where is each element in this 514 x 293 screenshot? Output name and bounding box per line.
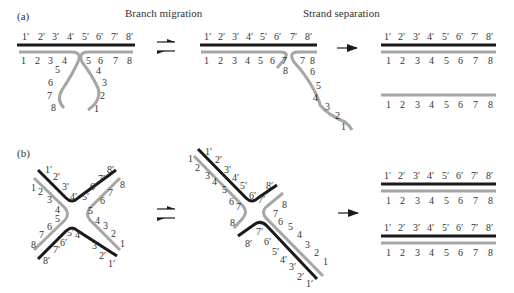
svg-text:5: 5 [222, 184, 227, 195]
svg-text:8: 8 [51, 102, 56, 113]
svg-text:8′: 8′ [107, 164, 114, 175]
svg-text:4: 4 [429, 195, 434, 206]
svg-text:8: 8 [310, 55, 315, 66]
svg-text:4′: 4′ [280, 254, 287, 265]
svg-text:4: 4 [96, 65, 101, 76]
svg-text:8′: 8′ [305, 31, 312, 42]
svg-text:7: 7 [108, 187, 113, 198]
svg-text:8′: 8′ [486, 170, 493, 181]
svg-text:3: 3 [102, 77, 107, 88]
svg-text:5′: 5′ [67, 227, 74, 238]
svg-text:5′: 5′ [442, 31, 449, 42]
svg-text:6: 6 [310, 66, 315, 77]
svg-text:6: 6 [47, 221, 52, 232]
svg-text:2: 2 [218, 55, 223, 66]
forward-arrow-b [338, 209, 359, 217]
svg-text:2′: 2′ [398, 31, 405, 42]
svg-text:4′: 4′ [70, 191, 77, 202]
svg-text:8: 8 [488, 195, 493, 206]
svg-text:5′: 5′ [442, 222, 449, 233]
svg-text:6′: 6′ [264, 236, 271, 247]
svg-text:5′: 5′ [240, 180, 247, 191]
svg-text:5: 5 [55, 64, 60, 75]
panel-a-label: (a) [17, 10, 30, 23]
svg-text:2: 2 [38, 186, 43, 197]
svg-text:5: 5 [444, 99, 449, 110]
svg-text:7: 7 [39, 229, 44, 240]
panel-b-label: (b) [17, 147, 30, 160]
svg-text:1′: 1′ [108, 258, 115, 269]
svg-text:2: 2 [400, 247, 405, 258]
svg-text:6: 6 [458, 99, 463, 110]
svg-text:8: 8 [31, 239, 36, 250]
svg-text:8′: 8′ [266, 180, 273, 191]
svg-text:5: 5 [444, 55, 449, 66]
svg-text:7′: 7′ [471, 170, 478, 181]
svg-text:2: 2 [314, 247, 319, 258]
svg-text:1: 1 [31, 182, 36, 193]
svg-text:3′: 3′ [232, 31, 239, 42]
svg-text:2′: 2′ [218, 31, 225, 42]
svg-text:1: 1 [120, 238, 125, 249]
svg-text:8: 8 [120, 179, 125, 190]
svg-text:1: 1 [94, 103, 99, 114]
svg-text:4′: 4′ [427, 170, 434, 181]
svg-text:3′: 3′ [52, 31, 59, 42]
panel-a-structure-1: 1′2′3′4′ 5′6′7′8′ 1234 5678 5678 4321 [17, 31, 135, 114]
svg-text:3′: 3′ [62, 181, 69, 192]
svg-text:7: 7 [473, 195, 478, 206]
svg-text:3′: 3′ [224, 164, 231, 175]
svg-text:4′: 4′ [75, 229, 82, 240]
reversible-arrow-b [157, 206, 175, 221]
svg-text:3: 3 [47, 194, 52, 205]
svg-text:8′: 8′ [486, 31, 493, 42]
svg-text:5: 5 [316, 80, 321, 91]
svg-text:7: 7 [300, 55, 305, 66]
svg-text:5: 5 [86, 55, 91, 66]
svg-text:5: 5 [258, 55, 263, 66]
svg-text:5′: 5′ [272, 246, 279, 257]
svg-text:2′: 2′ [215, 154, 222, 165]
svg-text:6′: 6′ [456, 170, 463, 181]
svg-text:1: 1 [386, 55, 391, 66]
svg-text:8: 8 [283, 65, 288, 76]
svg-text:7: 7 [473, 247, 478, 258]
svg-text:2: 2 [400, 195, 405, 206]
svg-text:6: 6 [458, 195, 463, 206]
svg-text:8′: 8′ [126, 31, 133, 42]
svg-text:5′: 5′ [82, 191, 89, 202]
svg-text:7′: 7′ [98, 173, 105, 184]
svg-text:2: 2 [335, 110, 340, 121]
branch-migration-title: Branch migration [125, 7, 203, 19]
svg-text:3′: 3′ [289, 261, 296, 272]
svg-text:6′: 6′ [96, 31, 103, 42]
svg-text:2′: 2′ [38, 31, 45, 42]
svg-text:4: 4 [429, 247, 434, 258]
svg-text:2: 2 [100, 90, 105, 101]
svg-text:1′: 1′ [384, 170, 391, 181]
svg-text:8: 8 [488, 55, 493, 66]
svg-text:8: 8 [282, 199, 287, 210]
svg-text:8: 8 [127, 55, 132, 66]
svg-text:1: 1 [386, 247, 391, 258]
svg-text:7′: 7′ [258, 194, 265, 205]
svg-text:7: 7 [473, 55, 478, 66]
svg-text:7: 7 [473, 99, 478, 110]
svg-text:4: 4 [62, 55, 67, 66]
svg-text:4: 4 [429, 99, 434, 110]
strand-separation-title: Strand separation [303, 7, 380, 19]
svg-text:5′: 5′ [260, 31, 267, 42]
svg-text:6: 6 [270, 55, 275, 66]
svg-text:8′: 8′ [43, 255, 50, 266]
svg-text:6′: 6′ [249, 190, 256, 201]
svg-text:6: 6 [229, 196, 234, 207]
svg-text:8′: 8′ [245, 238, 252, 249]
svg-text:2′: 2′ [99, 250, 106, 261]
svg-text:7′: 7′ [471, 31, 478, 42]
svg-text:3′: 3′ [413, 170, 420, 181]
svg-text:1′: 1′ [384, 222, 391, 233]
svg-text:7′: 7′ [471, 222, 478, 233]
svg-text:1: 1 [386, 99, 391, 110]
svg-text:3: 3 [415, 195, 420, 206]
svg-text:7′: 7′ [256, 226, 263, 237]
